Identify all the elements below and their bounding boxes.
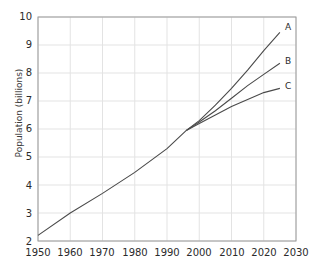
curve-historical	[38, 130, 186, 235]
curve-a	[186, 32, 280, 130]
population-projection-chart: Population (billions) 10 9 8 7 6 5 4 3 2…	[0, 0, 317, 271]
curve-c	[186, 88, 280, 130]
data-curves	[38, 32, 280, 235]
grid-lines	[38, 17, 296, 241]
plot-area	[0, 0, 317, 271]
